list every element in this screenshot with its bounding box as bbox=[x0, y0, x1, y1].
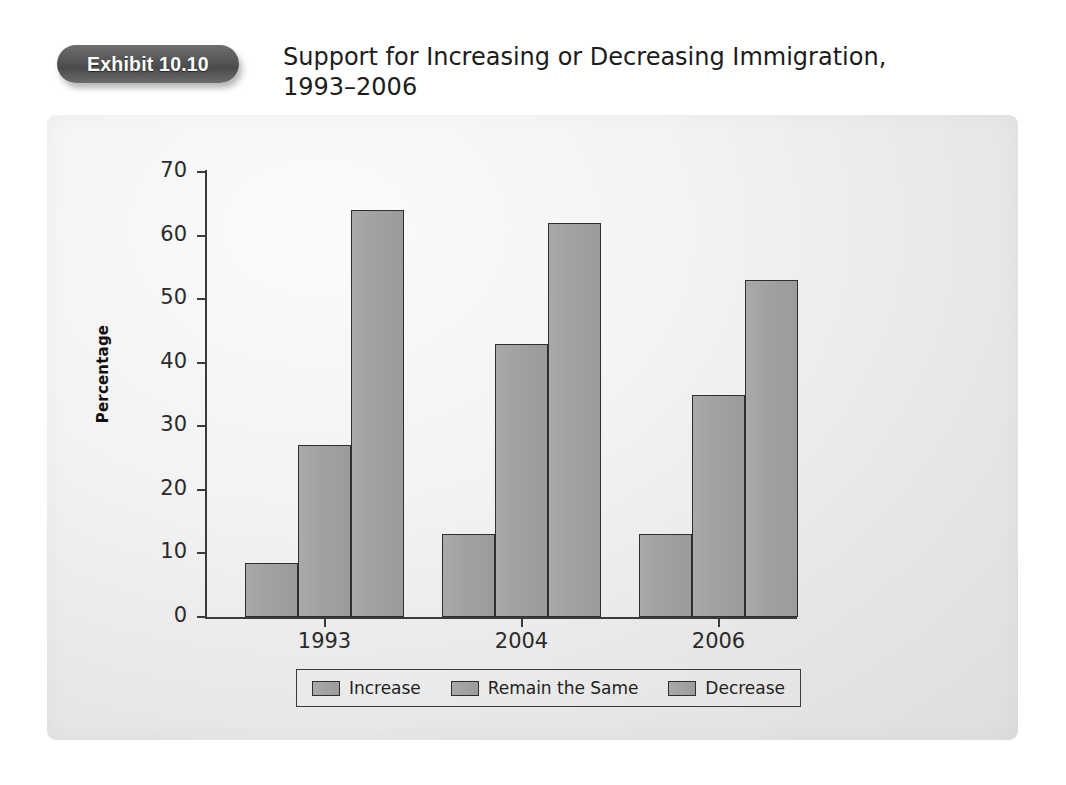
page-title: Support for Increasing or Decreasing Imm… bbox=[283, 42, 983, 102]
chart-panel: Percentage 010203040506070 199320042006 … bbox=[47, 115, 1018, 740]
y-tick-30 bbox=[197, 425, 206, 427]
legend-swatch-icon bbox=[668, 681, 696, 696]
bar-1993-increase bbox=[245, 563, 298, 617]
y-tick-label-text: 60 bbox=[133, 222, 187, 246]
y-tick-20 bbox=[197, 489, 206, 491]
y-tick-label-text: 30 bbox=[133, 412, 187, 436]
y-tick-10 bbox=[197, 552, 206, 554]
legend-label: Decrease bbox=[705, 678, 785, 698]
legend-label: Increase bbox=[349, 678, 421, 698]
y-tick-40 bbox=[197, 362, 206, 364]
y-tick-label-text: 50 bbox=[133, 285, 187, 309]
bar-2004-increase bbox=[442, 534, 495, 617]
y-tick-label-text: 0 bbox=[133, 603, 187, 627]
legend-item-decrease[interactable]: Decrease bbox=[668, 678, 785, 698]
x-tick-2006 bbox=[718, 618, 720, 627]
legend-swatch-icon bbox=[312, 681, 340, 696]
bar-2006-increase bbox=[639, 534, 692, 617]
exhibit-badge: Exhibit 10.10 bbox=[57, 45, 239, 83]
legend-label: Remain the Same bbox=[488, 678, 639, 698]
y-tick-70 bbox=[197, 171, 206, 173]
x-tick-2004 bbox=[521, 618, 523, 627]
legend-swatch-icon bbox=[451, 681, 479, 696]
x-axis-label-2006: 2006 bbox=[639, 629, 799, 653]
x-axis-label-1993: 1993 bbox=[245, 629, 405, 653]
page-title-line-1: Support for Increasing or Decreasing Imm… bbox=[283, 43, 886, 71]
chart-legend: IncreaseRemain the SameDecrease bbox=[296, 669, 801, 707]
x-axis-label-2004: 2004 bbox=[442, 629, 602, 653]
bar-1993-remain-the-same bbox=[298, 445, 351, 617]
y-axis-title: Percentage bbox=[94, 294, 112, 454]
legend-item-increase[interactable]: Increase bbox=[312, 678, 421, 698]
exhibit-badge-label: Exhibit 10.10 bbox=[87, 53, 209, 76]
y-tick-label-text: 20 bbox=[133, 476, 187, 500]
bar-2004-remain-the-same bbox=[495, 344, 548, 617]
bar-2006-decrease bbox=[745, 280, 798, 617]
y-tick-label-text: 70 bbox=[133, 158, 187, 182]
bar-2004-decrease bbox=[548, 223, 601, 617]
plot-area: Percentage 010203040506070 199320042006 … bbox=[47, 115, 1018, 740]
page-title-line-2: 1993–2006 bbox=[283, 72, 983, 102]
x-tick-1993 bbox=[324, 618, 326, 627]
y-tick-0 bbox=[197, 616, 206, 618]
y-tick-label-text: 40 bbox=[133, 349, 187, 373]
y-tick-60 bbox=[197, 235, 206, 237]
x-axis-line bbox=[205, 617, 797, 619]
bar-2006-remain-the-same bbox=[692, 395, 745, 618]
bar-1993-decrease bbox=[351, 210, 404, 617]
legend-item-remain-the-same[interactable]: Remain the Same bbox=[451, 678, 639, 698]
exhibit-header: Exhibit 10.10 Support for Increasing or … bbox=[0, 0, 1066, 115]
y-tick-50 bbox=[197, 298, 206, 300]
y-tick-label-text: 10 bbox=[133, 539, 187, 563]
